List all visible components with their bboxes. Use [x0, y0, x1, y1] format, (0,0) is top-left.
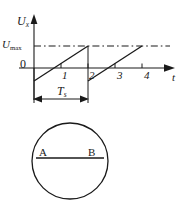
sawtooth-ramp-1: [34, 46, 88, 81]
x-tick-label-3: 3: [117, 70, 123, 81]
crt-screen-diagram: [32, 123, 108, 199]
y-axis-arrowhead: [31, 14, 38, 24]
umax-label-subscript: max: [10, 44, 22, 51]
sawtooth-waveform-figure: Ux Umax 0 1 2 3 4 t Ts A B: [0, 0, 185, 212]
period-label-base: T: [57, 84, 64, 98]
period-label: Ts: [57, 85, 67, 98]
y-axis-label: Ux: [17, 15, 29, 28]
umax-label: Umax: [2, 39, 22, 52]
period-label-subscript: s: [64, 90, 67, 99]
crt-screen-circle: [32, 123, 108, 199]
y-axis-label-subscript: x: [26, 20, 29, 29]
crt-point-a-label: A: [39, 147, 47, 158]
x-axis-label: t: [172, 72, 175, 83]
origin-label: 0: [20, 58, 26, 70]
figure-canvas: [0, 0, 185, 212]
y-axis-label-base: U: [17, 14, 26, 28]
umax-label-base: U: [2, 38, 10, 50]
waveform-plot: [19, 14, 175, 103]
x-tick-label-4: 4: [144, 70, 150, 81]
x-tick-label-1: 1: [62, 70, 68, 81]
crt-point-b-label: B: [88, 147, 95, 158]
sawtooth-ramp-2: [88, 46, 142, 81]
x-tick-label-2: 2: [89, 70, 95, 81]
